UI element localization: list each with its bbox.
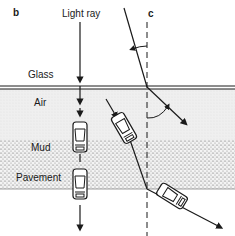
car-mud-vertical-icon	[73, 122, 87, 152]
panel-label-b: b	[13, 7, 19, 18]
pavement-label: Pavement	[16, 172, 61, 183]
glass-label: Glass	[28, 69, 54, 80]
car-pavement-vertical-icon	[73, 169, 87, 199]
refraction-diagram: b c Light ray Glass Air Mud Pavement	[0, 0, 235, 236]
mud-label: Mud	[31, 142, 50, 153]
panel-label-c: c	[148, 8, 154, 19]
light-ray-label: Light ray	[62, 8, 100, 19]
air-label: Air	[34, 97, 47, 108]
incident-angle-arc	[132, 46, 147, 49]
